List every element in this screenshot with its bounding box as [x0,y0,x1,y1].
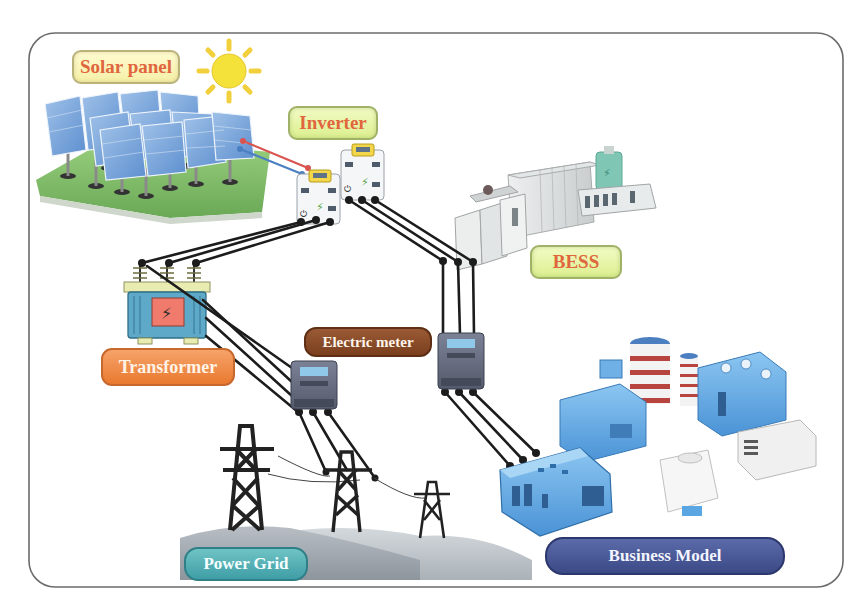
svg-text:⏻: ⏻ [300,209,307,219]
diagram-canvas: ⚡ ⏻ ⚡ ⏻ [0,0,867,614]
solar-panel-label: Solar panel [72,50,180,84]
bess-label: BESS [530,245,622,279]
svg-text:⏻: ⏻ [344,184,351,194]
electric-meter-label: Electric meter [304,327,432,357]
power-grid-label: Power Grid [184,547,308,581]
sun-icon [199,41,259,101]
business-model-label: Business Model [545,537,785,575]
svg-text:⚡: ⚡ [161,304,172,323]
svg-text:⚡: ⚡ [361,176,369,189]
energy-system-diagram: ⚡ ⏻ ⚡ ⏻ [0,0,867,614]
svg-text:⚡: ⚡ [603,167,611,180]
svg-text:⚡: ⚡ [316,201,324,214]
transformer-label: Transformer [101,348,235,386]
inverter-label: Inverter [288,106,378,140]
